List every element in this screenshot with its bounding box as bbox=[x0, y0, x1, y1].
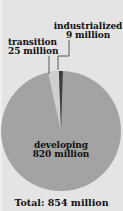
total-label: Total: 854 million bbox=[0, 198, 123, 208]
label-transition: transition 25 million bbox=[8, 38, 56, 56]
label-industrialized: industrialized 9 million bbox=[53, 22, 123, 40]
label-transition-value: 25 million bbox=[8, 47, 56, 56]
pie-chart-figure: industrialized 9 million transition 25 m… bbox=[0, 0, 123, 211]
label-developing-value: 820 million bbox=[30, 150, 92, 159]
label-industrialized-value: 9 million bbox=[53, 31, 123, 40]
label-developing: developing 820 million bbox=[30, 141, 92, 159]
leader-line-industrialized bbox=[58, 40, 69, 70]
